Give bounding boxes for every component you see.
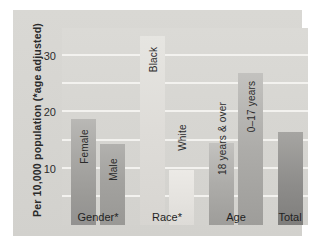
bar-label-female: Female: [78, 129, 89, 164]
gridline-10: [62, 167, 308, 169]
gridline-20: [62, 110, 308, 112]
bar-label-0-17-years: 0–17 years: [245, 81, 256, 132]
y-tick-30: 30: [30, 50, 56, 62]
bar-label-black: Black: [147, 47, 158, 72]
bar-label-white: White: [176, 124, 187, 151]
bar-label-male: Male: [107, 158, 118, 180]
chart-plate: Per 10,000 population (*age adjusted) 30…: [13, 10, 302, 236]
gridline-30: [62, 54, 308, 56]
x-label-gender: Gender*: [78, 211, 119, 223]
bar-chart-figure: Per 10,000 population (*age adjusted) 30…: [0, 0, 315, 249]
x-label-race: Race*: [152, 211, 182, 223]
bar-label-18-years-and-over: 18 years & over: [216, 102, 227, 175]
gridline-25: [62, 82, 308, 84]
x-label-total: Total: [278, 211, 301, 223]
y-tick-20: 20: [30, 106, 56, 118]
bar-black: Black: [140, 36, 165, 225]
x-label-age: Age: [226, 211, 246, 223]
bar-0-17-years: 0–17 years: [238, 73, 263, 225]
plot-area: 30 20 10 Female Male Black White 18 year…: [62, 28, 308, 225]
bar-female: Female: [71, 119, 96, 225]
y-tick-10: 10: [30, 163, 56, 175]
